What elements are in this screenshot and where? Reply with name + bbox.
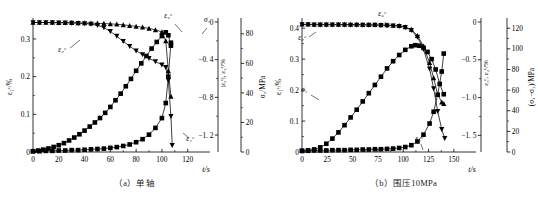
series-ε₂ᶜ bbox=[30, 20, 174, 148]
data-point bbox=[67, 138, 72, 143]
data-point bbox=[50, 149, 55, 154]
data-point bbox=[330, 148, 335, 153]
data-point bbox=[87, 124, 92, 129]
y-mid-tick-label: 0 bbox=[210, 18, 214, 27]
plot-a: 020406080100120t/s00.10.20.3ε₁ᶜ/%0−0. 4−… bbox=[0, 0, 269, 176]
data-point bbox=[102, 146, 107, 151]
y-right-tick-label: 20 bbox=[512, 127, 520, 136]
curve-label-eps3c: ε₃ᶜ bbox=[164, 11, 172, 20]
data-point bbox=[56, 143, 61, 148]
y-axis-left-label: ε₁ᶜ/% bbox=[274, 78, 283, 95]
curve-leader-eps1c bbox=[421, 144, 423, 150]
data-point bbox=[82, 147, 87, 152]
data-point bbox=[89, 147, 94, 152]
data-point bbox=[121, 144, 126, 149]
curve-label-sigma1: σ₁ bbox=[204, 15, 211, 24]
data-point bbox=[403, 48, 408, 53]
data-point bbox=[127, 142, 132, 147]
data-point bbox=[379, 147, 384, 152]
data-point bbox=[118, 91, 123, 96]
data-point bbox=[170, 143, 175, 148]
data-point bbox=[442, 136, 447, 141]
y-left-tick-label: 0 bbox=[26, 148, 30, 157]
caption-a: （a）单轴 bbox=[0, 176, 269, 188]
x-tick-label: 100 bbox=[156, 155, 167, 164]
series-ε₂ᶜ bbox=[299, 22, 446, 106]
data-point bbox=[342, 123, 347, 128]
data-point bbox=[37, 149, 42, 154]
data-point bbox=[168, 114, 173, 119]
figure-container: 020406080100120t/s00.10.20.3ε₁ᶜ/%0−0. 4−… bbox=[0, 0, 538, 198]
y-right-tick-label: 60 bbox=[512, 86, 520, 95]
series-σ₁ bbox=[31, 30, 174, 154]
x-tick-label: 0 bbox=[300, 155, 304, 164]
data-point bbox=[72, 135, 77, 140]
x-tick-label: 60 bbox=[107, 155, 115, 164]
y-left-tick-label: 0.2 bbox=[21, 72, 31, 81]
data-point bbox=[373, 83, 378, 88]
y-right-tick-label: 100 bbox=[512, 44, 523, 53]
series-line bbox=[302, 24, 444, 103]
data-point bbox=[306, 148, 311, 153]
curve-leader-sigma1 bbox=[202, 28, 207, 34]
data-point bbox=[409, 143, 414, 148]
data-point bbox=[397, 146, 402, 151]
data-point bbox=[160, 116, 165, 121]
plot-b: 0255075100125150t/s00.10.20.30.4ε₁ᶜ/%0−0… bbox=[269, 0, 538, 176]
data-point bbox=[163, 38, 168, 43]
data-point bbox=[409, 44, 414, 49]
data-point bbox=[147, 132, 152, 137]
x-tick-label: 50 bbox=[349, 155, 357, 164]
x-tick-label: 40 bbox=[81, 155, 89, 164]
x-axis-label: t/s bbox=[468, 165, 476, 174]
caption-b: （b）围压10MPa bbox=[269, 176, 538, 188]
data-point bbox=[403, 145, 408, 150]
data-point bbox=[44, 149, 49, 154]
data-point bbox=[144, 54, 149, 59]
data-point bbox=[121, 39, 126, 44]
y-axis-right-label: σ₁/MPa bbox=[258, 75, 267, 98]
y-right-tick-label: 60 bbox=[246, 59, 254, 68]
data-point bbox=[360, 99, 365, 104]
data-point bbox=[62, 141, 67, 146]
x-tick-label: 25 bbox=[324, 155, 332, 164]
x-tick-label: 80 bbox=[132, 155, 140, 164]
data-point bbox=[76, 148, 81, 153]
curve-leader-sigma1 bbox=[311, 95, 319, 100]
y-left-tick-label: 0.2 bbox=[290, 86, 300, 95]
data-point bbox=[413, 43, 418, 48]
data-point bbox=[166, 33, 171, 38]
data-point bbox=[56, 148, 61, 153]
data-point bbox=[114, 145, 119, 150]
data-point bbox=[93, 120, 98, 125]
data-point bbox=[348, 115, 353, 120]
data-point bbox=[134, 68, 139, 73]
x-tick-label: 120 bbox=[182, 155, 193, 164]
data-point bbox=[427, 121, 432, 126]
data-point bbox=[429, 57, 434, 62]
data-point bbox=[113, 98, 118, 103]
data-point bbox=[385, 147, 390, 152]
data-point bbox=[63, 148, 68, 153]
curve-leader-eps2c bbox=[309, 32, 316, 37]
data-point bbox=[163, 101, 168, 106]
data-point bbox=[163, 65, 168, 70]
x-tick-label: 100 bbox=[398, 155, 409, 164]
y-mid-tick-label: −1. 5 bbox=[461, 131, 477, 140]
data-point bbox=[77, 132, 82, 137]
data-point bbox=[69, 148, 74, 153]
y-mid-tick-label: −0. 4 bbox=[198, 55, 214, 64]
x-tick-label: 75 bbox=[374, 155, 382, 164]
data-point bbox=[129, 77, 134, 82]
y-axis-mid-label: ε₃ᶜ, ε₂ᶜ/% bbox=[482, 60, 490, 86]
data-point bbox=[154, 40, 159, 45]
curve-label-eps1c: ε₁ᶜ bbox=[186, 134, 194, 143]
x-tick-label: 125 bbox=[423, 155, 434, 164]
y-right-tick-label: 120 bbox=[512, 24, 523, 33]
data-point bbox=[139, 61, 144, 66]
y-mid-tick-label: −0. 5 bbox=[461, 55, 477, 64]
data-point bbox=[169, 40, 174, 45]
data-point bbox=[441, 92, 446, 97]
data-point bbox=[108, 105, 113, 110]
data-point bbox=[425, 50, 430, 55]
